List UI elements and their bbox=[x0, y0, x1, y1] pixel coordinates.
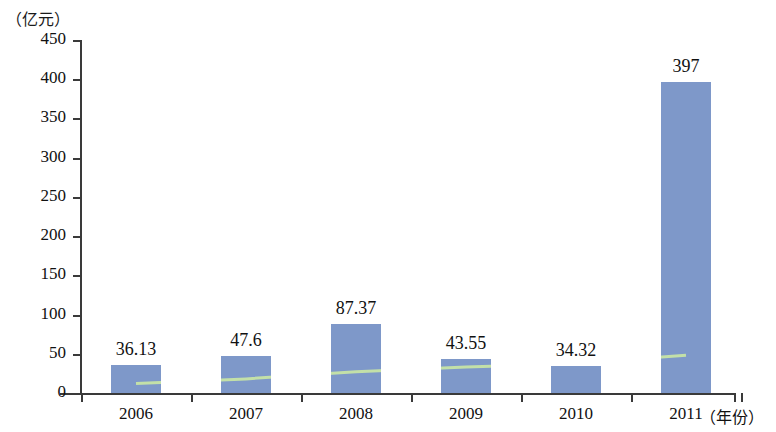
y-axis-tick bbox=[73, 158, 80, 160]
y-axis-tick bbox=[73, 236, 80, 238]
y-axis-tick bbox=[73, 315, 80, 317]
bar-value-label: 43.55 bbox=[416, 333, 516, 354]
bar bbox=[661, 82, 711, 393]
y-axis-tick-label: 50 bbox=[6, 343, 66, 363]
x-axis-title: （年份） bbox=[700, 404, 764, 428]
y-axis-tick-label: 200 bbox=[6, 225, 66, 245]
x-axis-tick-label: 2008 bbox=[316, 404, 396, 424]
y-axis-tick-label: 150 bbox=[6, 264, 66, 284]
y-axis-tick-label: 100 bbox=[6, 304, 66, 324]
bar-value-label: 36.13 bbox=[86, 339, 186, 360]
bar-chart: （亿元） 050100150200250300350400450 36.1347… bbox=[0, 0, 776, 432]
x-axis-tick-label: 2009 bbox=[426, 404, 506, 424]
bar-value-label: 34.32 bbox=[526, 340, 626, 361]
x-axis-tick bbox=[741, 393, 743, 402]
bar bbox=[111, 365, 161, 393]
y-axis-tick-label: 250 bbox=[6, 186, 66, 206]
bar bbox=[441, 359, 491, 393]
y-axis-tick-label: 350 bbox=[6, 107, 66, 127]
x-axis-tick bbox=[301, 393, 303, 402]
x-axis-tick bbox=[81, 393, 83, 402]
bar-value-label: 87.37 bbox=[306, 298, 406, 319]
bar-value-label: 47.6 bbox=[196, 330, 296, 351]
x-axis-tick-label: 2006 bbox=[96, 404, 176, 424]
bar bbox=[331, 324, 381, 393]
y-axis-tick-label: 0 bbox=[6, 382, 66, 402]
y-axis-tick bbox=[73, 354, 80, 356]
x-axis-tick-label: 2007 bbox=[206, 404, 286, 424]
y-axis-tick-label: 300 bbox=[6, 147, 66, 167]
bar-value-label: 397 bbox=[636, 56, 736, 77]
bar bbox=[551, 366, 601, 393]
y-axis-tick bbox=[73, 197, 80, 199]
x-axis-tick bbox=[521, 393, 523, 402]
x-axis-tick-label: 2010 bbox=[536, 404, 616, 424]
y-axis-tick bbox=[73, 40, 80, 42]
y-axis-unit-label: （亿元） bbox=[6, 6, 70, 30]
y-axis-tick bbox=[73, 79, 80, 81]
x-axis-line bbox=[60, 393, 736, 395]
y-axis-tick bbox=[73, 275, 80, 277]
y-axis-tick-label: 400 bbox=[6, 68, 66, 88]
y-axis-tick-label: 450 bbox=[6, 29, 66, 49]
y-axis-tick bbox=[73, 393, 80, 395]
bar bbox=[221, 356, 271, 393]
x-axis-tick bbox=[631, 393, 633, 402]
x-axis-end-cap bbox=[734, 393, 736, 402]
y-axis-tick bbox=[73, 118, 80, 120]
x-axis-tick bbox=[411, 393, 413, 402]
y-axis-line bbox=[80, 40, 82, 395]
x-axis-tick bbox=[191, 393, 193, 402]
